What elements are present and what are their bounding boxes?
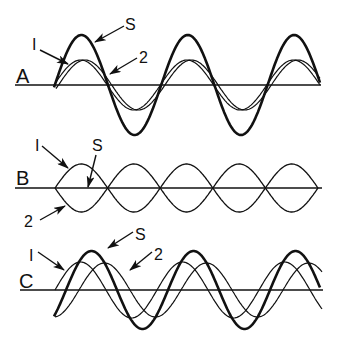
wave-interference-figure: A I S 2 B I S 2 C I S 2 [0, 0, 337, 343]
panel-b-label: B [16, 167, 29, 189]
panel-a: A I S 2 [15, 16, 321, 135]
panel-c-callouts: I S 2 [29, 226, 163, 270]
panel-b-callout-label-s: S [92, 137, 103, 154]
panel-c: C I S 2 [19, 226, 323, 329]
arrow-icon [130, 252, 152, 270]
panel-a-callouts: I S 2 [32, 16, 148, 74]
panel-b: B I S 2 [15, 137, 322, 230]
arrow-icon [110, 58, 137, 74]
panel-c-callout-label-2: 2 [154, 246, 163, 263]
panel-c-callout-label-1: I [29, 247, 33, 264]
panel-c-label: C [19, 270, 33, 292]
arrow-icon [38, 252, 64, 270]
panel-b-callout-label-1: I [35, 137, 39, 154]
arrow-icon [108, 232, 133, 248]
panel-b-callout-label-2: 2 [24, 213, 33, 230]
panel-a-callout-label-1: I [32, 36, 36, 53]
arrow-icon [40, 206, 65, 220]
panel-a-callout-label-s: S [125, 16, 136, 33]
arrow-icon [95, 26, 124, 42]
panel-c-callout-label-s: S [135, 226, 146, 243]
panel-a-label: A [16, 65, 30, 87]
panel-b-callouts: I S 2 [24, 137, 103, 230]
arrow-icon [42, 146, 68, 168]
panel-a-callout-label-2: 2 [139, 49, 148, 66]
